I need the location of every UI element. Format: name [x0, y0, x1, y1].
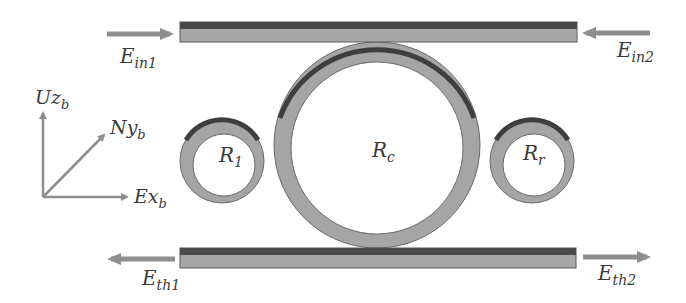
microring-diagram: Ein1 Ein2 Eth1 Eth2 R1 Rc Rr Uzb Nyb Exb [0, 0, 686, 303]
bottom-waveguide [180, 248, 576, 268]
top-waveguide [180, 22, 577, 42]
label-e-th1: Eth1 [141, 266, 180, 293]
label-uz: Uzb [35, 86, 69, 112]
label-e-th2: Eth2 [597, 261, 636, 288]
label-e-in1: Ein1 [119, 44, 157, 71]
label-e-in2: Ein2 [616, 38, 654, 65]
y-axis-arrow [43, 135, 104, 197]
label-ex: Exb [133, 185, 167, 211]
label-ny: Nyb [109, 116, 146, 142]
